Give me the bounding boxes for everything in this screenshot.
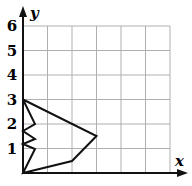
y-axis-arrow-icon [19,6,27,17]
grid-lines [23,26,170,173]
axes [22,14,178,174]
y-tick-1: 1 [7,140,17,158]
y-tick-3: 3 [7,91,17,109]
y-tick-2: 2 [7,115,17,133]
y-axis-label: y [29,4,40,22]
y-tick-6: 6 [7,17,17,35]
y-tick-labels: 1 2 3 4 5 6 [7,17,17,158]
y-tick-4: 4 [7,66,17,84]
y-tick-5: 5 [7,42,17,60]
polygon-shape [23,100,97,174]
x-axis-label: x [174,152,185,170]
coordinate-grid: y x 1 2 3 4 5 6 [0,0,192,186]
x-axis-arrow-icon [177,169,188,177]
